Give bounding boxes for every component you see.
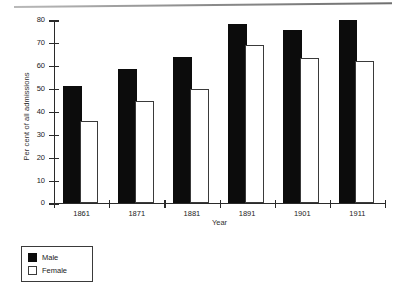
y-tick-label-50: 50 [37, 84, 45, 93]
x-tick-label-1891: 1891 [220, 209, 275, 218]
plot-area-wrapper: Per cent of all admissions 0102030405060… [0, 0, 405, 232]
bar-female-1861 [80, 121, 99, 203]
bar-group-1871 [109, 22, 164, 203]
y-tick-label-30: 30 [37, 130, 45, 139]
legend-swatch-female [28, 266, 37, 275]
bar-group-1861 [54, 22, 109, 203]
x-tick-label-1901: 1901 [275, 209, 330, 218]
x-axis-label: Year [54, 218, 385, 227]
x-tick-label-1861: 1861 [54, 209, 109, 218]
y-tick-label-20: 20 [37, 153, 45, 162]
bar-female-1911 [355, 61, 374, 203]
bar-chart-figure: Per cent of all admissions 0102030405060… [0, 0, 405, 300]
chart-legend: Male Female [21, 246, 93, 282]
y-tick-label-60: 60 [37, 61, 45, 70]
y-tick-label-40: 40 [37, 107, 45, 116]
y-tick-label-70: 70 [37, 38, 45, 47]
legend-item-male: Male [28, 251, 92, 264]
plot-area: 01020304050607080 1861187118811891190119… [54, 21, 385, 204]
legend-label-female: Female [42, 266, 67, 275]
y-tick-label-10: 10 [37, 176, 45, 185]
x-tick-label-1911: 1911 [330, 209, 385, 218]
x-tick-label-1871: 1871 [109, 209, 164, 218]
bar-female-1891 [245, 45, 264, 203]
bar-group-1881 [164, 22, 219, 203]
bar-group-1891 [220, 22, 275, 203]
bar-group-1901 [275, 22, 330, 203]
x-tick-label-1881: 1881 [164, 209, 219, 218]
x-tick-6 [385, 200, 386, 208]
y-tick-label-0: 0 [41, 198, 45, 207]
legend-item-female: Female [28, 264, 92, 277]
y-axis-label: Per cent of all admissions [22, 47, 31, 187]
bar-female-1881 [190, 89, 209, 203]
bar-female-1901 [300, 58, 319, 203]
legend-swatch-male [28, 253, 37, 262]
bar-female-1871 [135, 101, 154, 203]
bar-group-1911 [330, 22, 385, 203]
legend-label-male: Male [42, 253, 58, 262]
y-tick-label-80: 80 [37, 15, 45, 24]
